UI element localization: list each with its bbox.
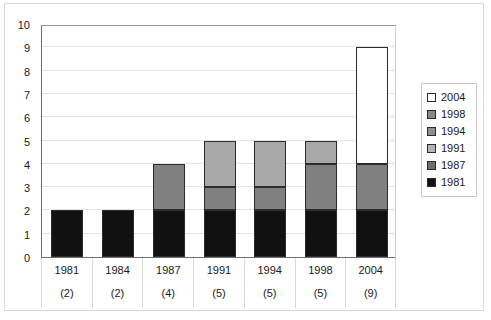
bar-group[interactable]	[153, 26, 185, 257]
legend-item[interactable]: 1987	[427, 157, 472, 174]
bar-segment[interactable]	[204, 141, 236, 188]
legend-swatch-icon	[427, 178, 436, 187]
bar-group[interactable]	[356, 26, 388, 257]
bar-segment[interactable]	[51, 210, 83, 257]
y-axis-tick-label: 4	[24, 159, 30, 170]
plot-area	[41, 25, 396, 258]
legend-item[interactable]: 2004	[427, 89, 472, 106]
legend-swatch-icon	[427, 93, 436, 102]
bar-segment[interactable]	[305, 210, 337, 257]
x-axis-total-label: (5)	[245, 287, 295, 299]
x-axis: 1981(2)1984(2)1987(4)1991(5)1994(5)1998(…	[41, 258, 396, 308]
stacked-bar-chart: 012345678910 1981(2)1984(2)1987(4)1991(5…	[0, 0, 491, 320]
bar-segment[interactable]	[356, 164, 388, 211]
bar-segment[interactable]	[204, 187, 236, 210]
y-axis-tick-label: 9	[24, 43, 30, 54]
legend-item-label: 1998	[441, 109, 465, 120]
x-axis-total-label: (5)	[296, 287, 346, 299]
x-axis-category-label: 1991	[194, 264, 244, 276]
x-axis-category-label: 1987	[143, 264, 193, 276]
bar-segment[interactable]	[356, 47, 388, 164]
bar-segment[interactable]	[254, 141, 286, 188]
legend-item-label: 1991	[441, 143, 465, 154]
y-axis-tick-label: 7	[24, 89, 30, 100]
bar-group[interactable]	[305, 26, 337, 257]
y-axis-tick-label: 8	[24, 66, 30, 77]
y-axis-tick-label: 0	[24, 253, 30, 264]
y-axis-tick-label: 10	[18, 20, 30, 31]
legend-swatch-icon	[427, 110, 436, 119]
bar-group[interactable]	[254, 26, 286, 257]
legend-item-label: 2004	[441, 92, 465, 103]
bar-segment[interactable]	[254, 187, 286, 210]
legend-item[interactable]: 1991	[427, 140, 472, 157]
x-axis-category-label: 1994	[245, 264, 295, 276]
bar-segment[interactable]	[254, 210, 286, 257]
bar-segment[interactable]	[204, 210, 236, 257]
legend-item[interactable]: 1994	[427, 123, 472, 140]
y-axis-tick-label: 1	[24, 229, 30, 240]
x-axis-cell: 2004(9)	[345, 258, 396, 308]
bar-group[interactable]	[102, 26, 134, 257]
y-axis-tick-label: 3	[24, 183, 30, 194]
x-axis-cell: 1981(2)	[41, 258, 92, 308]
legend-item[interactable]: 1981	[427, 174, 472, 191]
x-axis-cell: 1984(2)	[92, 258, 143, 308]
x-axis-cell: 1991(5)	[193, 258, 244, 308]
x-axis-category-label: 1998	[296, 264, 346, 276]
y-axis-tick-label: 6	[24, 113, 30, 124]
chart-title	[150, 0, 350, 3]
x-axis-cell: 1994(5)	[244, 258, 295, 308]
x-axis-total-label: (2)	[93, 287, 143, 299]
legend-item-label: 1994	[441, 126, 465, 137]
legend-swatch-icon	[427, 127, 436, 136]
x-axis-cell: 1998(5)	[295, 258, 346, 308]
x-axis-category-label: 1981	[42, 264, 92, 276]
x-axis-total-label: (9)	[346, 287, 395, 299]
legend-swatch-icon	[427, 144, 436, 153]
bar-segment[interactable]	[305, 164, 337, 211]
bar-segment[interactable]	[356, 210, 388, 257]
x-axis-category-label: 2004	[346, 264, 395, 276]
x-axis-cell: 1987(4)	[142, 258, 193, 308]
bar-segment[interactable]	[102, 210, 134, 257]
bar-segment[interactable]	[153, 164, 185, 211]
legend-item[interactable]: 1998	[427, 106, 472, 123]
legend-swatch-icon	[427, 161, 436, 170]
x-axis-total-label: (2)	[42, 287, 92, 299]
x-axis-category-label: 1984	[93, 264, 143, 276]
x-axis-total-label: (4)	[143, 287, 193, 299]
y-axis-tick-label: 5	[24, 136, 30, 147]
y-axis-tick-label: 2	[24, 206, 30, 217]
y-axis-labels: 012345678910	[0, 25, 36, 258]
bar-group[interactable]	[204, 26, 236, 257]
legend-item-label: 1981	[441, 177, 465, 188]
legend-item-label: 1987	[441, 160, 465, 171]
bar-segment[interactable]	[305, 141, 337, 164]
bar-segment[interactable]	[153, 210, 185, 257]
x-axis-total-label: (5)	[194, 287, 244, 299]
chart-legend: 200419981994199119871981	[421, 83, 477, 197]
bars-container	[42, 26, 395, 257]
bar-group[interactable]	[51, 26, 83, 257]
